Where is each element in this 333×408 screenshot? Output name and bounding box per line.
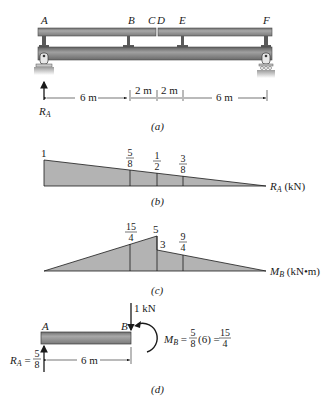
stringer-right [158,28,272,36]
load-label: 1 kN [134,302,156,314]
influence-line-mb: 15 4 5 3 9 4 MB (kN•m) (c) [44,221,320,297]
svg-text:3: 3 [181,153,186,164]
svg-text:5: 5 [128,147,133,158]
dimension-ab: 6 m [80,91,97,103]
fbd-beam [41,332,131,344]
ra-value-3-8: 3 8 [179,153,187,175]
svg-text:MB =: MB = [163,333,187,347]
svg-text:8: 8 [128,158,133,169]
caption-b: (b) [151,195,164,208]
moment-arc-icon [138,323,157,352]
moment-arrowhead-icon [134,321,141,328]
svg-text:8: 8 [181,164,186,175]
influence-line-ra: 1 5 8 1 2 3 8 RA (kN) (b) [41,147,305,208]
fbd-point-a: A [41,320,49,332]
svg-text:9: 9 [181,231,186,242]
mb-value-9-4: 9 4 [179,231,187,253]
point-label-a: A [40,14,48,26]
svg-text:(6) =: (6) = [198,333,220,346]
fbd-dimension-label: 6 m [81,354,98,366]
point-label-e: E [178,14,186,26]
reaction-label-ra: RA [38,105,51,119]
svg-text:15: 15 [126,221,136,232]
svg-text:5: 5 [191,327,196,338]
moment-expression: MB = 5 8 (6) = 15 4 [163,327,231,349]
svg-text:4: 4 [181,242,186,253]
floor-beam-posts [39,36,271,47]
figure-a-floor-system: A B C D E F [34,14,275,133]
ra-value-1-2: 1 2 [153,150,161,172]
svg-text:2: 2 [155,161,160,172]
fbd-point-b: B [121,320,128,332]
svg-text:8: 8 [191,338,196,349]
mb-influence-area [44,236,266,271]
free-body-diagram: A B 1 kN MB = 5 8 (6) = 15 4 RA = 5 8 [9,302,231,396]
dimension-de: 2 m [161,84,178,96]
dimension-ef: 6 m [216,91,233,103]
svg-text:RA =: RA = [9,354,31,368]
main-girder [38,47,272,60]
stringer-left [38,28,156,36]
point-label-d: D [156,14,165,26]
svg-text:15: 15 [220,327,230,338]
point-label-f: F [262,14,270,26]
svg-text:1: 1 [155,150,160,161]
fbd-reaction-label: RA = 5 8 [9,348,41,370]
caption-a: (a) [151,120,164,133]
ra-axis-label: RA (kN) [269,180,305,194]
point-label-b: B [128,14,135,26]
mb-value-3: 3 [160,238,166,250]
dimension-bc: 2 m [135,84,152,96]
point-label-c: C [148,14,156,26]
svg-text:4: 4 [223,338,228,349]
ra-value-5-8: 5 8 [126,147,134,169]
svg-text:5: 5 [35,348,40,359]
mb-value-15-4: 15 4 [125,221,137,243]
svg-text:4: 4 [129,232,134,243]
mb-value-5: 5 [153,223,159,235]
caption-c: (c) [151,284,164,297]
ra-value-1: 1 [41,147,47,159]
mb-axis-label: MB (kN•m) [269,265,320,279]
caption-d: (d) [151,383,164,396]
svg-text:8: 8 [35,359,40,370]
